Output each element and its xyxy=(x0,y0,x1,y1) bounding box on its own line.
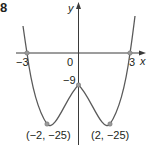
y-axis-label: y xyxy=(67,2,75,14)
point-x-intercept-right xyxy=(128,51,132,55)
point-min-left xyxy=(45,122,49,126)
x-intercept-left-label: −3 xyxy=(16,56,29,68)
min-right-label: (2, −25) xyxy=(91,129,129,141)
point-x-intercept-left xyxy=(25,51,29,55)
y-intercept-label: −9 xyxy=(63,74,76,86)
y-axis-arrow-icon xyxy=(76,2,81,9)
graph: y x 0 −3 3 −9 (−2, −25) (2, −25) xyxy=(0,0,151,145)
point-y-intercept xyxy=(76,83,80,87)
point-min-right xyxy=(108,122,112,126)
x-axis-label: x xyxy=(139,55,146,67)
origin-label: 0 xyxy=(67,56,73,68)
x-intercept-right-label: 3 xyxy=(129,56,135,68)
min-left-label: (−2, −25) xyxy=(26,129,71,141)
